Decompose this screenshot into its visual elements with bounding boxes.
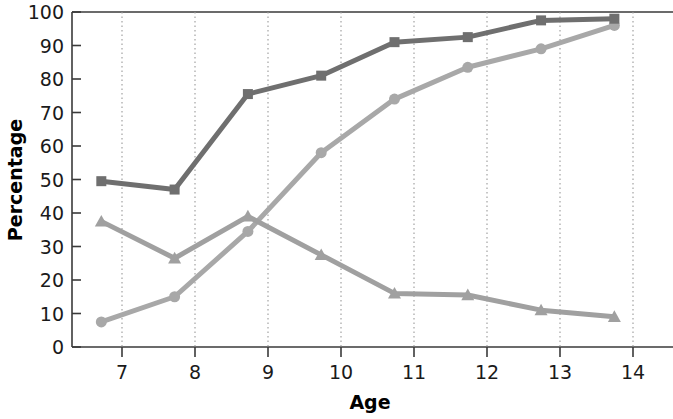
- x-tick-label-14: 14: [621, 361, 645, 383]
- y-tick-label-0: 0: [52, 336, 64, 358]
- series-dark-square-marker: [463, 32, 473, 42]
- series-dark-square-marker: [389, 37, 399, 47]
- series-dark-square-marker: [609, 14, 619, 24]
- y-tick-label-90: 90: [40, 35, 64, 57]
- x-tick-label-12: 12: [475, 361, 499, 383]
- y-tick-label-80: 80: [40, 68, 64, 90]
- series-light-circle-marker: [536, 43, 547, 54]
- y-tick-label-10: 10: [40, 303, 64, 325]
- series-light-circle-marker: [169, 291, 180, 302]
- series-light-circle-marker: [462, 62, 473, 73]
- series-light-circle-marker: [316, 147, 327, 158]
- series-dark-square-marker: [96, 176, 106, 186]
- x-tick-label-9: 9: [262, 361, 274, 383]
- x-tick-label-11: 11: [402, 361, 426, 383]
- x-tick-label-10: 10: [329, 361, 353, 383]
- series-dark-square-marker: [316, 71, 326, 81]
- series-dark-square-marker: [536, 15, 546, 25]
- x-axis-title: Age: [349, 391, 390, 413]
- series-dark-square-marker: [243, 89, 253, 99]
- line-chart: 100 90 80 70 60 50 40 30 20 10 0: [0, 0, 673, 419]
- y-tick-label-60: 60: [40, 135, 64, 157]
- y-tick-label-30: 30: [40, 236, 64, 258]
- x-tick-label-8: 8: [189, 361, 201, 383]
- chart-figure: 100 90 80 70 60 50 40 30 20 10 0: [0, 0, 673, 419]
- series-light-circle-marker: [96, 316, 107, 327]
- y-tick-label-50: 50: [40, 169, 64, 191]
- x-tick-label-13: 13: [548, 361, 572, 383]
- y-tick-label-20: 20: [40, 269, 64, 291]
- series-dark-square-marker: [170, 185, 180, 195]
- series-light-circle-marker: [242, 226, 253, 237]
- y-tick-label-70: 70: [40, 102, 64, 124]
- x-tick-label-7: 7: [116, 361, 128, 383]
- y-tick-label-100: 100: [28, 1, 64, 23]
- y-tick-label-40: 40: [40, 202, 64, 224]
- chart-background: [0, 0, 673, 419]
- y-axis-title: Percentage: [4, 119, 26, 241]
- series-light-circle-marker: [389, 94, 400, 105]
